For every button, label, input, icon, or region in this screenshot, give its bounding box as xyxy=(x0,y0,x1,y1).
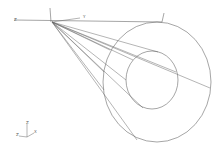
wireframe-canvas: Z Y Z Z X xyxy=(0,0,220,153)
triad-label-left: Z xyxy=(16,132,19,137)
outer-circle xyxy=(103,22,211,142)
local-axis-label-right: Y xyxy=(82,14,86,19)
apex-vertical-line xyxy=(50,8,51,22)
local-axis-label-left: Z xyxy=(14,17,17,22)
3d-viewport[interactable]: Z Y Z Z X xyxy=(0,0,220,153)
axis-line xyxy=(14,20,162,22)
end-tick-line xyxy=(162,13,164,22)
inner-circle xyxy=(126,51,178,109)
cone-rays xyxy=(52,22,210,140)
triad-label-up: Z xyxy=(26,120,29,125)
triad-label-right: X xyxy=(34,129,37,134)
orientation-triad xyxy=(19,124,34,137)
local-y-axis xyxy=(52,18,80,22)
